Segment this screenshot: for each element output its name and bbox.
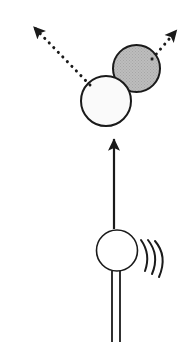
diagram-root <box>0 0 190 342</box>
diagram-background <box>0 0 190 342</box>
source-body <box>97 230 138 271</box>
scattering-diagram <box>0 0 190 342</box>
white-particle <box>81 76 131 126</box>
